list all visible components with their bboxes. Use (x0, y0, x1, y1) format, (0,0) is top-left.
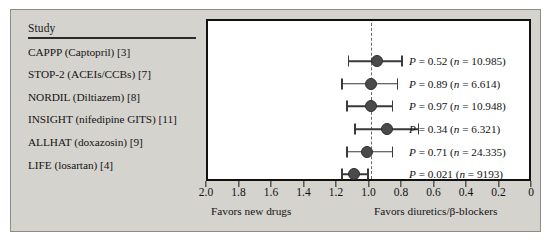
plot-area: P = 0.52 (n = 10.985)P = 0.89 (n = 6.614… (206, 19, 531, 181)
forest-row: P = 0.71 (n = 24.335) (208, 140, 529, 163)
study-label: STOP-2 (ACEIs/CCBs) [7] (28, 63, 208, 86)
p-value-label: P = 0.97 (n = 10.948) (409, 100, 506, 112)
confidence-interval-cap-high (397, 78, 399, 89)
estimate-marker (361, 146, 373, 158)
x-axis-tick-label: 0.6 (426, 186, 440, 198)
estimate-marker (348, 168, 360, 180)
estimate-marker (365, 100, 377, 112)
x-axis-tick-label: 1.4 (296, 186, 310, 198)
x-axis-tick-label: 0.8 (394, 186, 408, 198)
confidence-interval-cap-low (354, 124, 356, 135)
x-axis-tick-label: 0.4 (459, 186, 473, 198)
p-value-label: P = 0.71 (n = 24.335) (409, 146, 506, 158)
x-axis-tick-label: 0.2 (491, 186, 505, 198)
p-value-label: P = 0.021 (n = 9193) (409, 168, 503, 180)
confidence-interval-cap-low (341, 78, 343, 89)
confidence-interval-cap-high (392, 146, 394, 157)
axis-caption-right: Favors diuretics/β-blockers (374, 205, 497, 217)
study-column-divider (28, 37, 196, 39)
plot-inner: P = 0.52 (n = 10.985)P = 0.89 (n = 6.614… (208, 21, 529, 179)
forest-row: P = 0.52 (n = 10.985) (208, 50, 529, 73)
study-label: LIFE (losartan) [4] (28, 154, 208, 177)
forest-plot-figure: Study CAPPP (Captopril) [3]STOP-2 (ACEIs… (0, 0, 558, 248)
confidence-interval-cap-low (346, 146, 348, 157)
forest-row: P = 0.89 (n = 6.614) (208, 73, 529, 96)
axis-caption-left: Favors new drugs (211, 205, 291, 217)
study-column: Study CAPPP (Captopril) [3]STOP-2 (ACEIs… (28, 22, 208, 176)
confidence-interval-cap-high (367, 169, 369, 180)
confidence-interval-cap-low (348, 56, 350, 67)
forest-row: P = 0.97 (n = 10.948) (208, 95, 529, 118)
x-axis-tick-label: 2.0 (199, 186, 213, 198)
study-label: NORDIL (Diltiazem) [8] (28, 86, 208, 109)
estimate-marker (371, 55, 383, 67)
p-value-label: P = 0.52 (n = 10.985) (409, 55, 506, 67)
confidence-interval-cap-low (346, 101, 348, 112)
estimate-marker (381, 123, 393, 135)
x-axis-tick-labels: 2.01.81.61.41.21.00.80.60.40.20 (206, 186, 531, 202)
confidence-interval-cap-low (341, 169, 343, 180)
study-label: INSIGHT (nifedipine GITS) [11] (28, 108, 208, 131)
confidence-interval-cap-high (401, 56, 403, 67)
study-label: ALLHAT (doxazosin) [9] (28, 131, 208, 154)
p-value-label: P = 0.34 (n = 6.321) (409, 123, 500, 135)
x-axis-tick-label: 1.2 (329, 186, 343, 198)
x-axis-tick-label: 1.6 (264, 186, 278, 198)
x-axis-tick-label: 1.8 (231, 186, 245, 198)
study-list: CAPPP (Captopril) [3]STOP-2 (ACEIs/CCBs)… (28, 41, 208, 177)
x-axis-tick-label: 0 (528, 186, 534, 198)
confidence-interval-cap-high (392, 101, 394, 112)
study-column-header: Study (28, 22, 208, 37)
p-value-label: P = 0.89 (n = 6.614) (409, 78, 500, 90)
estimate-marker (365, 78, 377, 90)
x-axis-tick-label: 1.0 (361, 186, 375, 198)
study-label: CAPPP (Captopril) [3] (28, 41, 208, 64)
forest-row: P = 0.34 (n = 6.321) (208, 118, 529, 141)
